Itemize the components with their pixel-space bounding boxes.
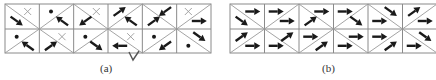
grid-cell xyxy=(185,8,207,25)
arrow-se-icon xyxy=(419,32,431,41)
arrow-sw-icon xyxy=(159,7,171,16)
grid-cell xyxy=(49,10,68,26)
cross-icon xyxy=(127,33,134,40)
arrow-ne-icon xyxy=(408,7,420,16)
dot-icon xyxy=(186,44,190,48)
arrow-e-icon xyxy=(338,8,353,15)
cross-icon xyxy=(24,8,31,15)
arrow-nw-icon xyxy=(125,17,137,26)
arrow-e-icon xyxy=(418,17,433,24)
arrow-se-icon xyxy=(385,7,397,16)
arrow-e-icon xyxy=(372,33,387,40)
grid-diagonal xyxy=(177,4,211,29)
arrow-se-icon xyxy=(350,17,362,26)
caption-b: (b) xyxy=(322,62,335,74)
triangular-grid-figure xyxy=(0,0,436,80)
arrow-se-icon xyxy=(90,41,102,50)
arrow-nw-icon xyxy=(56,17,68,26)
arrow-se-icon xyxy=(11,17,23,26)
grid-diagonal xyxy=(265,4,300,29)
arrow-ne-icon xyxy=(45,41,57,50)
grid-cell xyxy=(186,32,205,48)
cross-icon xyxy=(58,33,65,40)
panel-b xyxy=(230,4,436,53)
arrow-ne-icon xyxy=(148,17,160,26)
arrow-e-icon xyxy=(245,42,260,49)
arrow-sw-icon xyxy=(79,17,91,26)
dot-icon xyxy=(83,35,87,39)
panel-a xyxy=(5,4,211,53)
grid-diagonal xyxy=(108,29,142,53)
grid-diagonal xyxy=(299,4,334,29)
arrow-ne-icon xyxy=(305,17,317,26)
arrow-e-icon xyxy=(192,17,207,24)
grid-cell xyxy=(83,35,102,51)
dot-icon xyxy=(152,35,156,39)
arrow-w-icon xyxy=(112,42,127,49)
arrow-se-icon xyxy=(236,17,248,26)
arrow-e-icon xyxy=(280,17,295,24)
pointer-mark-icon xyxy=(129,51,139,60)
arrow-e-icon xyxy=(407,42,422,49)
cross-icon xyxy=(93,8,100,15)
arrow-e-icon xyxy=(245,8,260,15)
arrow-ne-icon xyxy=(385,41,397,50)
arrow-e-icon xyxy=(372,17,387,24)
grid-cell xyxy=(112,33,134,49)
arrow-se-icon xyxy=(193,32,205,41)
arrow-ne-icon xyxy=(316,41,328,50)
dot-icon xyxy=(49,10,53,14)
arrow-nw-icon xyxy=(22,41,34,50)
arrow-sw-icon xyxy=(159,41,171,50)
caption-a: (a) xyxy=(100,62,112,74)
grid-diagonal xyxy=(39,4,73,29)
grid-cell xyxy=(152,35,171,51)
grid-diagonal xyxy=(334,29,369,53)
arrow-e-icon xyxy=(269,42,284,49)
cross-icon xyxy=(185,8,192,15)
grid-cell xyxy=(15,35,34,51)
arrow-e-icon xyxy=(269,8,284,15)
arrow-ne-icon xyxy=(281,32,293,41)
arrow-e-icon xyxy=(349,33,364,40)
arrow-e-icon xyxy=(303,33,318,40)
dot-icon xyxy=(15,35,19,39)
grid-cell xyxy=(45,33,66,50)
arrow-e-icon xyxy=(338,42,353,49)
arrow-ne-icon xyxy=(114,7,126,16)
arrow-ne-icon xyxy=(236,32,248,41)
arrow-e-icon xyxy=(314,8,329,15)
